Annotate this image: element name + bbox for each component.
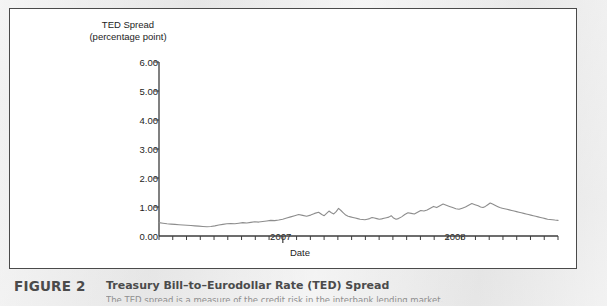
chart-plot-area: TED Spread (percentage point) 0.001.002.… [10, 9, 576, 268]
axis-lines [159, 62, 558, 236]
axis-tick-marks [154, 62, 558, 243]
figure-title: Treasury Bill–to–Eurodollar Rate (TED) S… [106, 279, 389, 292]
chart-svg [10, 9, 578, 270]
figure-subtitle-clipped: The TED spread is a measure of the credi… [106, 295, 443, 302]
figure-caption: FIGURE 2 Treasury Bill–to–Eurodollar Rat… [9, 278, 599, 306]
ted-spread-line [159, 203, 558, 227]
figure-number: FIGURE 2 [14, 278, 86, 294]
figure-panel: TED Spread (percentage point) 0.001.002.… [9, 8, 577, 269]
